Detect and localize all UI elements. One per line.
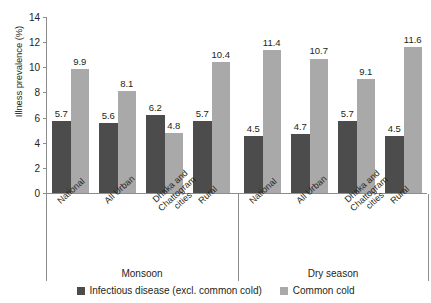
bar[interactable]: [244, 136, 263, 193]
season-separator: [428, 194, 429, 281]
legend-item[interactable]: Infectious disease (excl. common cold): [77, 285, 262, 296]
bar[interactable]: [212, 62, 231, 193]
bar[interactable]: [99, 123, 118, 193]
bar[interactable]: [71, 69, 90, 193]
chart-title: [0, 0, 431, 1]
bar-value-label: 5.7: [341, 108, 354, 119]
bar-chart: Illness prevalence (%) 02468101214 5.79.…: [0, 0, 431, 303]
bar[interactable]: [338, 121, 357, 193]
bar-value-label: 9.9: [73, 56, 86, 67]
y-tick-label: 6: [14, 112, 40, 123]
bar-value-label: 9.1: [359, 66, 372, 77]
y-tick-label: 4: [14, 137, 40, 148]
y-tick-label: 2: [14, 162, 40, 173]
bar-value-label: 5.6: [102, 110, 115, 121]
legend-label: Infectious disease (excl. common cold): [90, 285, 262, 296]
bar-value-label: 4.7: [294, 121, 307, 132]
bar[interactable]: [404, 47, 423, 193]
season-separator: [46, 194, 47, 281]
legend-swatch: [77, 287, 85, 295]
bar-value-label: 4.5: [388, 123, 401, 134]
bar-value-label: 10.7: [310, 45, 329, 56]
bar[interactable]: [291, 134, 310, 193]
bar[interactable]: [52, 121, 71, 193]
bar-value-label: 10.4: [212, 49, 231, 60]
bar-value-label: 11.6: [404, 34, 422, 45]
season-group-label: Monsoon: [121, 268, 162, 279]
bar[interactable]: [263, 50, 282, 193]
bar-value-label: 4.5: [247, 123, 260, 134]
legend-label: Common cold: [293, 285, 355, 296]
y-tick-label: 8: [14, 87, 40, 98]
y-tick-label: 12: [14, 37, 40, 48]
bar-value-label: 8.1: [120, 78, 133, 89]
bar-value-label: 5.7: [196, 108, 209, 119]
bar-value-label: 4.8: [167, 120, 180, 131]
bar-value-label: 6.2: [149, 102, 162, 113]
season-separator: [238, 194, 239, 281]
y-tick-label: 0: [14, 188, 40, 199]
legend-item[interactable]: Common cold: [280, 285, 355, 296]
legend-swatch: [280, 287, 288, 295]
bar-value-label: 11.4: [263, 37, 281, 48]
bar[interactable]: [146, 115, 165, 193]
y-tick-label: 14: [14, 12, 40, 23]
y-tick-label: 10: [14, 62, 40, 73]
bar[interactable]: [310, 59, 329, 194]
bar-value-label: 5.7: [55, 108, 68, 119]
chart-legend: Infectious disease (excl. common cold)Co…: [0, 285, 431, 296]
season-group-label: Dry season: [308, 268, 359, 279]
y-axis-line: [46, 17, 47, 194]
